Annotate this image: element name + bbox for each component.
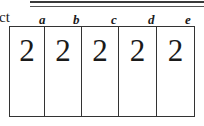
grid-cell-c: 2: [82, 27, 119, 116]
cell-value: 2: [45, 35, 81, 66]
answer-grid: 2 2 2 2 2: [9, 26, 195, 117]
second-rule: [30, 6, 204, 7]
cell-value: 2: [10, 35, 44, 66]
row-label-fragment: ct: [0, 9, 10, 26]
cell-value: 2: [82, 35, 118, 66]
cell-value: 2: [119, 35, 156, 66]
grid-cell-d: 2: [119, 27, 157, 116]
cell-value: 2: [157, 35, 194, 66]
top-rule: [30, 1, 204, 3]
grid-cell-a: 2: [10, 27, 45, 116]
grid-cell-e: 2: [157, 27, 194, 116]
grid-cell-b: 2: [45, 27, 82, 116]
